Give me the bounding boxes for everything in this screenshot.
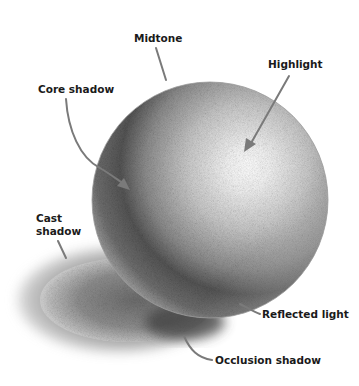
label-midtone: Midtone	[134, 32, 182, 45]
cast-shadow-leader	[58, 241, 66, 258]
label-occlusion-shadow: Occlusion shadow	[215, 354, 321, 367]
sphere-shape	[92, 82, 328, 318]
shading-diagram: Midtone Highlight Core shadow Cast shado…	[0, 0, 359, 386]
label-highlight: Highlight	[268, 58, 323, 71]
midtone-leader	[156, 48, 166, 80]
label-core-shadow: Core shadow	[38, 83, 114, 96]
label-cast-shadow: Cast shadow	[36, 212, 81, 238]
label-reflected-light: Reflected light	[262, 308, 349, 321]
